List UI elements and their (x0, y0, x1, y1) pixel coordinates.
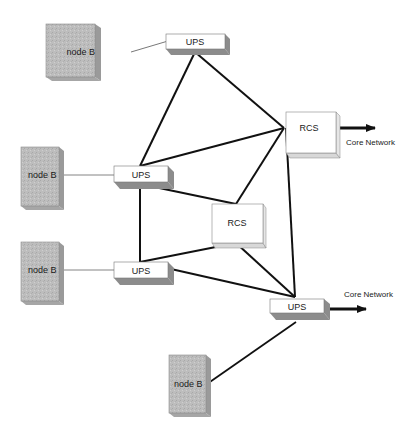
node-b-3[interactable]: node B (21, 242, 64, 305)
core-network-label-2: Core Network (344, 290, 394, 299)
ups-1-label: UPS (186, 37, 205, 47)
access-link-nodeb4-ups4 (207, 322, 296, 384)
rcs-1-label: RCS (299, 123, 318, 133)
ups-4[interactable]: UPS (270, 299, 330, 320)
link-ups1-ups2 (140, 52, 195, 166)
link-ups1-rcs1 (195, 52, 284, 128)
access-link-nodeb1-ups1 (131, 41, 168, 52)
link-rcs2-ups4 (236, 243, 295, 297)
node-b-2[interactable]: node B (21, 147, 64, 210)
rcs-2-label: RCS (227, 218, 246, 228)
link-ups2-rcs1 (140, 128, 284, 166)
node-b-3-label: node B (28, 265, 57, 275)
ups-4-label: UPS (288, 302, 307, 312)
node-b-2-label: node B (28, 170, 57, 180)
ups-2-label: UPS (132, 170, 151, 180)
core-network-label-1: Core Network (346, 138, 396, 147)
ups-3[interactable]: UPS (114, 262, 174, 285)
node-b-4[interactable]: node B (169, 355, 211, 417)
node-b-1[interactable]: node B (46, 24, 101, 81)
node-b-4-label: node B (174, 379, 203, 389)
ups-2[interactable]: UPS (114, 166, 174, 189)
rcs-2[interactable]: RCS (212, 204, 266, 248)
node-b-1-label: node B (66, 47, 95, 57)
network-diagram: Core Network Core Network node B node B … (0, 0, 413, 442)
ups-1[interactable]: UPS (166, 34, 230, 55)
ups-3-label: UPS (132, 266, 151, 276)
rcs-1[interactable]: RCS (286, 112, 340, 158)
